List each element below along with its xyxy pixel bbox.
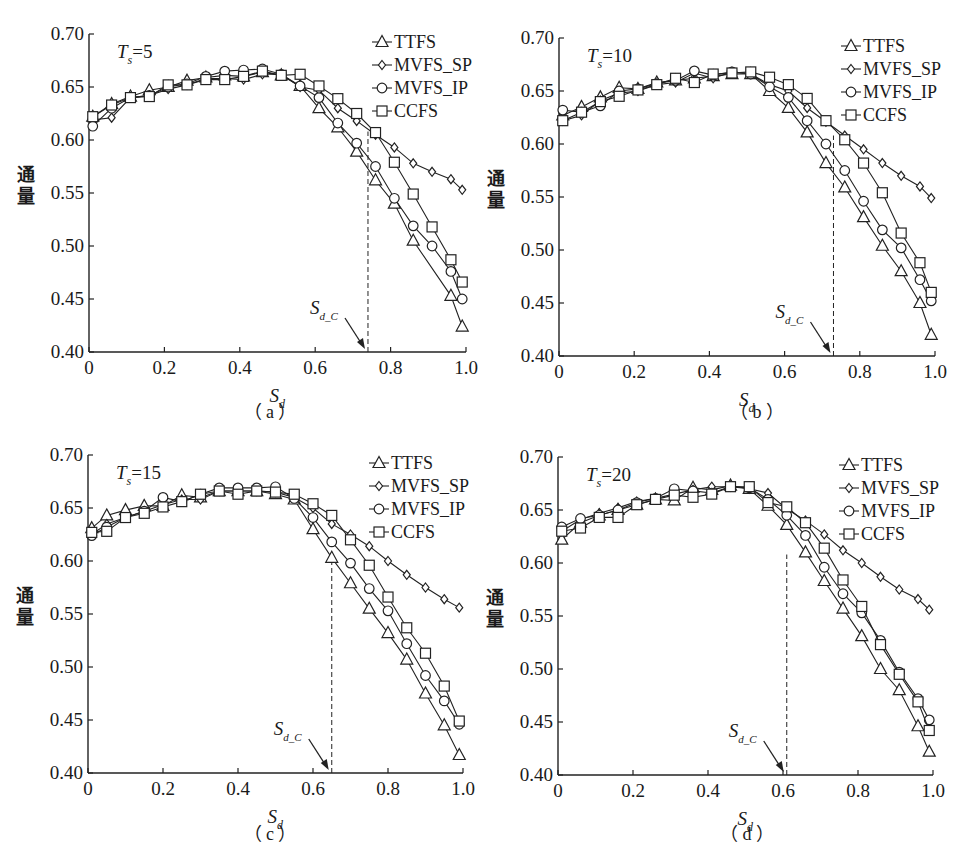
square-marker-icon bbox=[421, 648, 431, 658]
square-marker-icon bbox=[107, 100, 117, 110]
square-marker-icon bbox=[876, 640, 886, 650]
circle-marker-icon bbox=[88, 121, 98, 131]
square-marker-icon bbox=[727, 68, 737, 78]
legend-label: MVFS_SP bbox=[394, 55, 472, 75]
legend-label: MVFS_IP bbox=[861, 501, 935, 521]
x-tick-label: 1.0 bbox=[921, 780, 945, 801]
x-tick-label: 0.8 bbox=[376, 778, 400, 799]
legend-item-mvfs-sp: MVFS_SP bbox=[839, 478, 939, 498]
legend-item-mvfs-sp: MVFS_SP bbox=[841, 59, 941, 79]
diamond-marker-icon bbox=[877, 572, 884, 581]
y-tick-label: 0.40 bbox=[520, 764, 553, 785]
y-tick-label: 0.55 bbox=[51, 182, 84, 203]
axes: 0.400.450.500.550.600.650.7000.20.40.60.… bbox=[50, 444, 475, 799]
legend-item-ccfs: CCFS bbox=[841, 105, 907, 125]
circle-marker-icon bbox=[576, 514, 586, 524]
triangle-marker-icon bbox=[858, 211, 870, 222]
legend-item-mvfs-ip: MVFS_IP bbox=[839, 501, 935, 521]
x-tick-label: 0.8 bbox=[848, 361, 872, 382]
square-legend-icon bbox=[846, 110, 856, 120]
legend-item-ttfs: TTFS bbox=[369, 453, 433, 473]
circle-marker-icon bbox=[690, 66, 700, 76]
square-marker-icon bbox=[239, 71, 249, 81]
y-tick-label: 0.45 bbox=[520, 711, 553, 732]
y-tick-label: 0.55 bbox=[520, 605, 553, 626]
square-marker-icon bbox=[802, 93, 812, 103]
diamond-marker-icon bbox=[840, 546, 847, 555]
square-marker-icon bbox=[857, 601, 867, 611]
legend-item-mvfs-ip: MVFS_IP bbox=[369, 499, 465, 519]
triangle-marker-icon bbox=[401, 653, 413, 664]
square-marker-icon bbox=[614, 91, 624, 101]
legend-label: CCFS bbox=[863, 105, 907, 125]
square-marker-icon bbox=[139, 508, 149, 518]
diamond-marker-icon bbox=[915, 595, 922, 604]
series-mvfs-ip bbox=[87, 482, 464, 729]
square-marker-icon bbox=[201, 75, 211, 85]
diamond-marker-icon bbox=[441, 595, 448, 604]
x-tick-label: 1.0 bbox=[454, 357, 478, 378]
sdc-label: Sd_C bbox=[310, 297, 339, 322]
square-marker-icon bbox=[308, 499, 318, 509]
square-marker-icon bbox=[389, 157, 399, 167]
circle-marker-icon bbox=[439, 696, 449, 706]
y-tick-label: 0.50 bbox=[51, 235, 84, 256]
circle-marker-icon bbox=[765, 82, 775, 92]
legend-label: CCFS bbox=[391, 522, 435, 542]
y-axis-label: 通量 bbox=[486, 588, 504, 630]
square-marker-icon bbox=[446, 255, 456, 265]
circle-marker-icon bbox=[314, 93, 324, 103]
legend-item-ttfs: TTFS bbox=[841, 36, 905, 56]
y-tick-label: 0.60 bbox=[51, 129, 84, 150]
sdc-label: Sd_C bbox=[775, 301, 804, 326]
square-marker-icon bbox=[163, 80, 173, 90]
legend: TTFSMVFS_SPMVFS_IPCCFS bbox=[369, 453, 469, 542]
circle-marker-icon bbox=[383, 606, 393, 616]
circle-marker-icon bbox=[408, 221, 418, 231]
ts-label: Ts=20 bbox=[586, 464, 631, 490]
legend-label: CCFS bbox=[861, 524, 905, 544]
square-marker-icon bbox=[352, 109, 362, 119]
diamond-marker-icon bbox=[459, 185, 466, 194]
x-tick-label: 0 bbox=[83, 778, 93, 799]
triangle-marker-icon bbox=[438, 719, 450, 730]
triangle-marker-icon bbox=[326, 551, 338, 562]
legend-item-ccfs: CCFS bbox=[839, 524, 905, 544]
square-marker-icon bbox=[671, 73, 681, 83]
square-marker-icon bbox=[594, 512, 604, 522]
triangle-marker-icon bbox=[856, 630, 868, 641]
circle-marker-icon bbox=[158, 493, 168, 503]
square-marker-icon bbox=[783, 80, 793, 90]
series-mvfs-ip bbox=[558, 66, 936, 306]
triangle-legend-icon bbox=[843, 459, 855, 470]
square-marker-icon bbox=[252, 486, 262, 496]
triangle-legend-icon bbox=[376, 36, 388, 47]
square-marker-icon bbox=[894, 669, 904, 679]
square-marker-icon bbox=[214, 486, 224, 496]
diamond-legend-icon bbox=[848, 65, 855, 74]
square-marker-icon bbox=[651, 494, 661, 504]
triangle-marker-icon bbox=[914, 297, 926, 308]
y-tick-label: 0.40 bbox=[51, 341, 84, 362]
square-marker-icon bbox=[707, 489, 717, 499]
legend-item-mvfs-sp: MVFS_SP bbox=[372, 55, 472, 75]
circle-marker-icon bbox=[838, 589, 848, 599]
square-marker-icon bbox=[457, 277, 467, 287]
y-tick-label: 0.65 bbox=[51, 76, 84, 97]
legend-item-ttfs: TTFS bbox=[839, 455, 903, 475]
square-marker-icon bbox=[801, 518, 811, 528]
legend-item-ttfs: TTFS bbox=[372, 32, 436, 52]
square-marker-icon bbox=[859, 158, 869, 168]
circle-marker-icon bbox=[446, 267, 456, 277]
square-marker-icon bbox=[454, 716, 464, 726]
sdc-label: Sd_C bbox=[274, 718, 303, 743]
square-marker-icon bbox=[125, 93, 135, 103]
square-legend-icon bbox=[844, 529, 854, 539]
triangle-marker-icon bbox=[420, 687, 432, 698]
circle-marker-icon bbox=[859, 196, 869, 206]
square-marker-icon bbox=[88, 112, 98, 122]
circle-marker-icon bbox=[402, 639, 412, 649]
legend-label: MVFS_SP bbox=[391, 476, 469, 496]
circle-marker-icon bbox=[333, 118, 343, 128]
diamond-marker-icon bbox=[898, 171, 905, 180]
